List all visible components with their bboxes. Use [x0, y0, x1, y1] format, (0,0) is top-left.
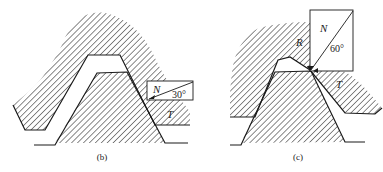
caption-c: (c) [293, 152, 303, 162]
thread-contact-diagram: N 30° T (b) N 60° R T (c) [0, 0, 383, 172]
panel-b: N 30° T (b) [13, 13, 193, 162]
label-angle-c: 60° [330, 43, 344, 54]
label-n-b: N [152, 83, 161, 95]
label-t-c: T [336, 78, 343, 90]
caption-b: (b) [97, 152, 108, 162]
label-t-b: T [167, 108, 174, 120]
label-n-c: N [319, 22, 328, 34]
panel-c: N 60° R T (c) [230, 10, 382, 162]
label-angle-b: 30° [172, 89, 186, 100]
label-r-c: R [295, 36, 303, 48]
